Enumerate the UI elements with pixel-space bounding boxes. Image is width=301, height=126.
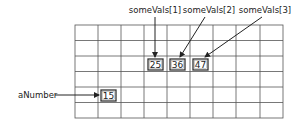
value-box-someVals2: 36 xyxy=(170,59,185,70)
value-box-someVals1: 25 xyxy=(148,59,163,70)
arrow-someVals3-icon xyxy=(205,17,262,57)
memory-diagram: 25 36 47 15 someVals[1] someVals[2] some… xyxy=(0,0,301,126)
label-someVals3: someVals[3] xyxy=(239,5,291,15)
value-15: 15 xyxy=(103,91,114,101)
value-box-someVals3: 47 xyxy=(193,59,208,70)
value-box-aNumber: 15 xyxy=(101,90,116,101)
label-someVals1: someVals[1] xyxy=(129,5,181,15)
value-25: 25 xyxy=(150,60,161,70)
label-someVals2: someVals[2] xyxy=(183,5,235,15)
value-36: 36 xyxy=(172,60,184,70)
label-aNumber: aNumber xyxy=(18,90,58,100)
value-47: 47 xyxy=(195,60,206,70)
memory-grid xyxy=(75,25,283,118)
arrow-someVals2-icon xyxy=(180,17,205,57)
